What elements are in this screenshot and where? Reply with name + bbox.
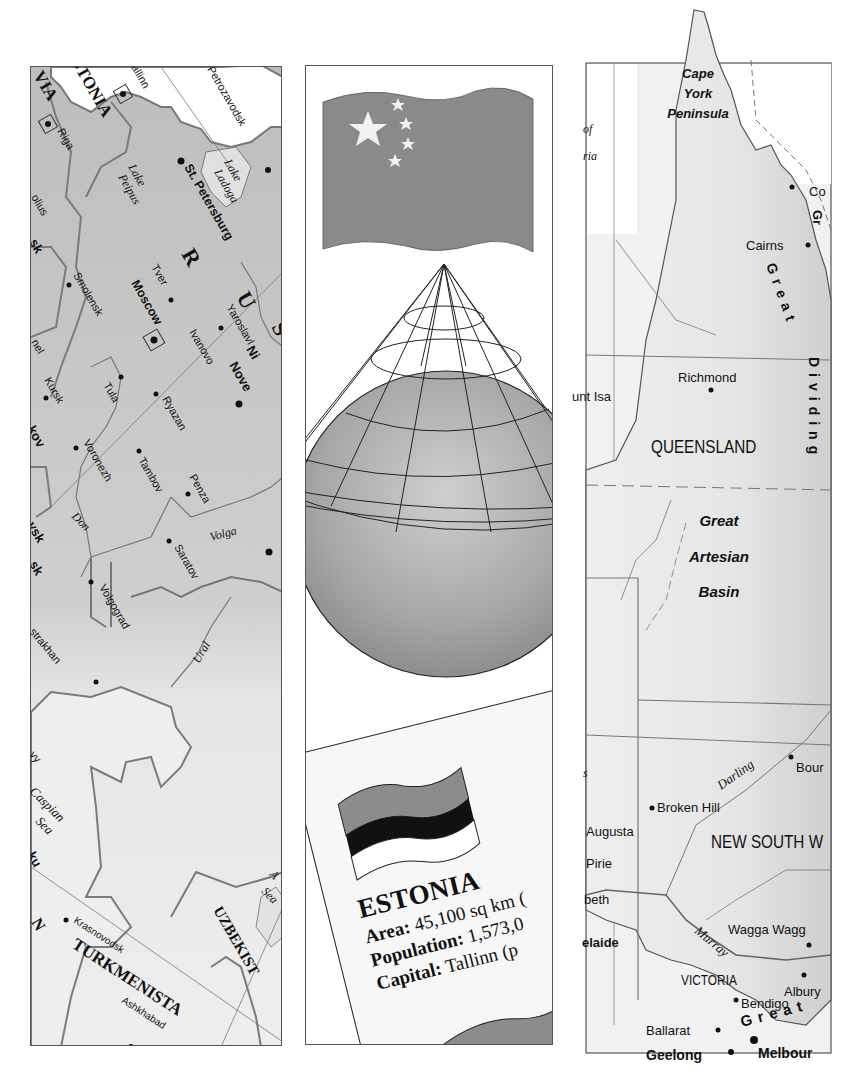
great-barrier-label: Gr (810, 210, 825, 225)
city-broken-hill: Broken Hill (657, 800, 720, 815)
china-flag (323, 88, 533, 252)
city-ballarat: Ballarat (646, 1023, 690, 1038)
lake-label: s (583, 766, 588, 780)
city-elizabeth: beth (584, 892, 609, 907)
city-bourke: Bour (796, 760, 824, 775)
great-artesian-label-1: Great (699, 512, 739, 529)
city-mount-isa: unt Isa (572, 389, 612, 404)
center-panel: ESTONIA Area: 45,100 sq km ( Population:… (305, 65, 553, 1045)
australia-map-panel: Cape York Peninsula of ria Co Gr Cairns … (586, 63, 831, 1053)
nsw-label: NEW SOUTH W (711, 832, 823, 852)
great-artesian-label-3: Basin (699, 583, 740, 600)
city-melbourne: Melbour (758, 1045, 813, 1061)
city-richmond: Richmond (678, 370, 737, 385)
city-geelong: Geelong (646, 1047, 702, 1063)
coral-sea-label: Co (809, 184, 826, 199)
queensland-label: QUEENSLAND (651, 437, 756, 457)
great-artesian-label-2: Artesian (688, 548, 749, 565)
victoria-label: VICTORIA (681, 972, 737, 988)
russia-map-panel: VIA STONIA allinn Riga Petrozavodsk St. … (30, 66, 282, 1046)
city-cairns: Cairns (746, 238, 784, 253)
city-wagga-wagga: Wagga Wagg (728, 922, 806, 937)
gulf-label-2: ria (583, 149, 597, 163)
great-dividing-label-2: Dividing (806, 357, 822, 460)
city-port-pirie: Pirie (586, 856, 612, 871)
russia-map-graphic: VIA STONIA allinn Riga Petrozavodsk St. … (31, 67, 282, 1046)
second-flag (427, 982, 553, 1045)
cape-york-label-1: Cape (682, 66, 714, 81)
estonia-flag (332, 753, 492, 884)
conic-projection-diagram (305, 264, 553, 677)
australia-map-graphic: Cape York Peninsula of ria Co Gr Cairns … (586, 0, 862, 1025)
city-port-augusta: Augusta (586, 824, 634, 839)
city-adelaide: elaide (582, 935, 619, 950)
cape-york-label-2: York (684, 86, 713, 101)
cape-york-label-3: Peninsula (667, 106, 728, 121)
